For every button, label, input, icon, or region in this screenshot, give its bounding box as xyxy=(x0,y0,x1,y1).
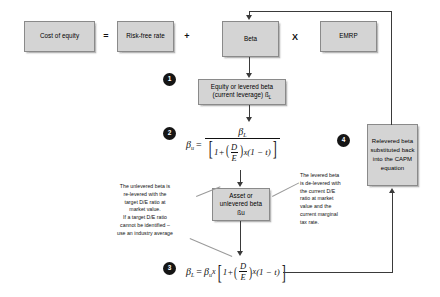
annotation-unlever-line-4: ratio at market xyxy=(300,195,364,203)
formula-relever-multiply: x xyxy=(212,267,216,276)
annotation-unlever-line-5: value and the xyxy=(300,203,364,211)
formula-relever-bracket-open: [ xyxy=(217,264,221,280)
connector-feedback-horizontal-top xyxy=(249,11,392,12)
node-levered-beta-line2: (current leverage) ßL xyxy=(213,91,272,101)
operator-times: X xyxy=(286,32,304,42)
badge-step-2-number: 2 xyxy=(168,130,172,137)
formula-relever-one-plus: 1+ xyxy=(223,267,234,277)
beta-levering-diagram: Cost of equity = Risk-free rate + Beta X… xyxy=(0,0,440,297)
formula-unlever-denominator: [1+(DE)x(1 − t)] xyxy=(205,138,281,163)
formula-unlever-numerator: βL xyxy=(234,126,250,138)
formula-relever-de-fraction: D E xyxy=(239,261,247,282)
arrowhead-into-beta xyxy=(246,15,252,20)
formula-relever-paren-close: ) xyxy=(249,266,252,278)
formula-relever-equals: = xyxy=(196,266,202,277)
connector-formula3-vertical-up xyxy=(392,193,393,273)
node-levered-beta-subscript: L xyxy=(269,95,272,100)
connector-feedback-vertical-right xyxy=(391,11,392,125)
badge-step-3: 3 xyxy=(163,262,176,275)
annotation-relever-line-7: use an industry average xyxy=(95,230,195,238)
arrowhead-into-relevered xyxy=(389,188,395,193)
node-cost-of-equity-label: Cost of equity xyxy=(40,32,79,41)
annotation-relever-line-2: re-levered with the xyxy=(95,191,195,199)
annotation-relever-line-3: target D/E ratio at xyxy=(95,199,195,207)
annotation-relever-line-1: The unlevered beta is xyxy=(95,183,195,191)
connector-formula3-horizontal xyxy=(283,272,393,273)
node-relevered-beta: Relevered beta substituted back into the… xyxy=(367,124,418,186)
operator-plus: + xyxy=(176,31,198,41)
badge-step-4: 4 xyxy=(337,134,350,147)
formula-relever-rhs: βu xyxy=(204,266,212,278)
annotation-unlever-line-3: the current D/E xyxy=(300,188,364,196)
annotation-unlever-line-1: The levered beta xyxy=(300,172,364,180)
badge-step-1: 1 xyxy=(163,73,176,86)
formula-relever-paren-open: ( xyxy=(234,266,237,278)
formula-unlever: βu = βL [1+(DE)x(1 − t)] xyxy=(186,126,281,163)
arrowhead-unlevered-to-formula3 xyxy=(237,251,243,256)
node-beta-label: Beta xyxy=(244,35,257,44)
annotation-unlever-line-6: current marginal xyxy=(300,211,364,219)
node-risk-free-rate-label: Risk-free rate xyxy=(126,32,165,41)
node-beta: Beta xyxy=(222,21,279,57)
node-cost-of-equity: Cost of equity xyxy=(24,21,95,52)
node-emrp: EMRP xyxy=(320,21,377,52)
leader-line-unlever-note xyxy=(272,182,299,197)
annotation-unlever-note: The levered beta is de-levered with the … xyxy=(300,172,364,227)
annotation-relever-line-6: cannot be identified – xyxy=(95,222,195,230)
connector-beta-to-levered xyxy=(249,57,250,74)
node-risk-free-rate: Risk-free rate xyxy=(117,21,174,52)
operator-equals: = xyxy=(95,31,117,41)
annotation-relever-line-5: If a target D/E ratio xyxy=(95,214,195,222)
annotation-relever-note: The unlevered beta is re-levered with th… xyxy=(95,183,195,238)
formula-unlever-equals: = xyxy=(196,139,202,150)
connector-unlevered-to-formula3 xyxy=(240,221,241,253)
node-levered-beta: Equity or levered beta (current leverage… xyxy=(198,79,286,105)
node-levered-beta-line1: Equity or levered beta xyxy=(211,83,273,92)
annotation-relever-line-4: market value. xyxy=(95,206,195,214)
formula-unlever-fraction: βL [1+(DE)x(1 − t)] xyxy=(205,126,281,163)
badge-step-1-number: 1 xyxy=(168,76,172,83)
formula-relever: βL = βu x [ 1+ ( D E ) x (1 − t) ] xyxy=(186,261,287,282)
badge-step-3-number: 3 xyxy=(168,265,172,272)
formula-relever-lhs: βL xyxy=(186,266,194,278)
leader-line-relever-note-2 xyxy=(190,238,233,257)
node-unlevered-beta: Asset or unlevered beta ßu xyxy=(212,188,270,221)
annotation-unlever-line-7: tax rate. xyxy=(300,219,364,227)
annotation-unlever-line-2: is de-levered with xyxy=(300,180,364,188)
formula-unlever-lhs: βu xyxy=(186,139,194,151)
node-unlevered-beta-line2: unlevered beta xyxy=(220,200,262,209)
arrowhead-levered-to-formula2 xyxy=(246,117,252,122)
arrowhead-beta-to-levered xyxy=(246,73,252,78)
arrowhead-formula2-to-unlevered xyxy=(237,182,243,187)
badge-step-2: 2 xyxy=(163,127,176,140)
node-unlevered-beta-line3: ßu xyxy=(237,209,244,218)
badge-step-4-number: 4 xyxy=(342,137,346,144)
node-relevered-beta-label: Relevered beta substituted back into the… xyxy=(370,137,415,173)
node-emrp-label: EMRP xyxy=(339,32,357,41)
formula-relever-tail: (1 − t) xyxy=(256,267,280,277)
node-unlevered-beta-line1: Asset or xyxy=(229,192,253,201)
